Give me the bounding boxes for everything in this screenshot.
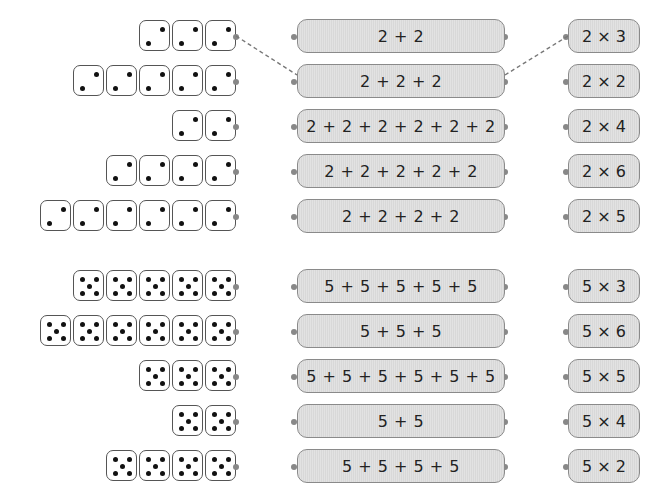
- dice-group: [40, 200, 236, 231]
- pip-icon: [179, 221, 184, 226]
- pip-icon: [113, 471, 118, 476]
- pip-icon: [113, 336, 118, 341]
- pip-icon: [179, 277, 184, 282]
- die-face-5-icon: [40, 315, 71, 346]
- pip-icon: [186, 329, 191, 334]
- section_two-row: 2 + 2 + 2 + 22 × 5: [0, 199, 660, 235]
- addition-expression-box[interactable]: 2 + 2 + 2: [297, 64, 505, 98]
- multiplication-expression-box[interactable]: 2 × 6: [568, 154, 640, 188]
- pip-icon: [153, 284, 158, 289]
- pip-icon: [219, 374, 224, 379]
- addition-expression-box[interactable]: 5 + 5 + 5 + 5: [297, 449, 505, 483]
- pip-icon: [160, 27, 165, 32]
- addition-expression-box[interactable]: 5 + 5 + 5: [297, 314, 505, 348]
- dice-connector-dot[interactable]: [233, 329, 239, 335]
- pip-icon: [212, 291, 217, 296]
- section_five-row: 5 + 5 + 5 + 5 + 5 + 55 × 5: [0, 359, 660, 395]
- pip-icon: [160, 336, 165, 341]
- pip-icon: [226, 457, 231, 462]
- pip-icon: [193, 336, 198, 341]
- die-face-5-icon: [139, 270, 170, 301]
- die-face-2-icon: [172, 20, 203, 51]
- pip-icon: [160, 471, 165, 476]
- section_five-row: 5 + 5 + 5 + 55 × 2: [0, 449, 660, 485]
- pip-icon: [193, 117, 198, 122]
- pip-icon: [160, 207, 165, 212]
- dice-connector-dot[interactable]: [233, 79, 239, 85]
- die-face-2-icon: [205, 20, 236, 51]
- pip-icon: [146, 322, 151, 327]
- pip-icon: [160, 72, 165, 77]
- pip-icon: [153, 464, 158, 469]
- addition-expression-box[interactable]: 2 + 2 + 2 + 2 + 2: [297, 154, 505, 188]
- pip-icon: [113, 277, 118, 282]
- pip-icon: [226, 27, 231, 32]
- multiplication-expression-box[interactable]: 2 × 3: [568, 19, 640, 53]
- multiplication-expression-box[interactable]: 2 × 2: [568, 64, 640, 98]
- die-face-5-icon: [139, 315, 170, 346]
- dice-connector-dot[interactable]: [233, 374, 239, 380]
- dice-group: [40, 315, 236, 346]
- pip-icon: [226, 367, 231, 372]
- multiplication-expression-box[interactable]: 5 × 5: [568, 359, 640, 393]
- die-face-5-icon: [172, 405, 203, 436]
- die-face-5-icon: [205, 360, 236, 391]
- pip-icon: [160, 381, 165, 386]
- pip-icon: [226, 322, 231, 327]
- pip-icon: [179, 367, 184, 372]
- pip-icon: [146, 41, 151, 46]
- dice-connector-dot[interactable]: [233, 284, 239, 290]
- pip-icon: [113, 457, 118, 462]
- die-face-5-icon: [106, 315, 137, 346]
- dice-connector-dot[interactable]: [233, 34, 239, 40]
- pip-icon: [219, 329, 224, 334]
- dice-group: [172, 405, 236, 436]
- pip-icon: [146, 291, 151, 296]
- die-face-5-icon: [172, 270, 203, 301]
- pip-icon: [146, 336, 151, 341]
- dice-connector-dot[interactable]: [233, 214, 239, 220]
- pip-icon: [226, 336, 231, 341]
- pip-icon: [160, 367, 165, 372]
- dice-connector-dot[interactable]: [233, 464, 239, 470]
- pip-icon: [113, 291, 118, 296]
- pip-icon: [212, 471, 217, 476]
- multiplication-expression-box[interactable]: 5 × 6: [568, 314, 640, 348]
- addition-expression-box[interactable]: 2 + 2: [297, 19, 505, 53]
- addition-expression-box[interactable]: 5 + 5 + 5 + 5 + 5: [297, 269, 505, 303]
- pip-icon: [80, 277, 85, 282]
- pip-icon: [212, 176, 217, 181]
- pip-icon: [212, 131, 217, 136]
- pip-icon: [193, 27, 198, 32]
- pip-icon: [193, 322, 198, 327]
- multiplication-expression-box[interactable]: 2 × 4: [568, 109, 640, 143]
- dice-connector-dot[interactable]: [233, 419, 239, 425]
- pip-icon: [179, 41, 184, 46]
- multiplication-expression-box[interactable]: 5 × 4: [568, 404, 640, 438]
- addition-expression-box[interactable]: 5 + 5: [297, 404, 505, 438]
- dice-connector-dot[interactable]: [233, 169, 239, 175]
- section_five-row: 5 + 5 + 55 × 6: [0, 314, 660, 350]
- pip-icon: [146, 176, 151, 181]
- dice-group: [106, 155, 236, 186]
- die-face-2-icon: [139, 200, 170, 231]
- pip-icon: [179, 322, 184, 327]
- pip-icon: [61, 207, 66, 212]
- dice-connector-dot[interactable]: [233, 124, 239, 130]
- addition-expression-box[interactable]: 5 + 5 + 5 + 5 + 5 + 5: [297, 359, 505, 393]
- die-face-2-icon: [40, 200, 71, 231]
- pip-icon: [146, 381, 151, 386]
- die-face-2-icon: [205, 155, 236, 186]
- dice-group: [106, 450, 236, 481]
- dice-group: [139, 20, 236, 51]
- die-face-2-icon: [205, 65, 236, 96]
- die-face-5-icon: [205, 450, 236, 481]
- die-face-5-icon: [139, 360, 170, 391]
- addition-expression-box[interactable]: 2 + 2 + 2 + 2: [297, 199, 505, 233]
- multiplication-expression-box[interactable]: 2 × 5: [568, 199, 640, 233]
- multiplication-expression-box[interactable]: 5 × 2: [568, 449, 640, 483]
- multiplication-expression-box[interactable]: 5 × 3: [568, 269, 640, 303]
- pip-icon: [113, 86, 118, 91]
- pip-icon: [212, 426, 217, 431]
- addition-expression-box[interactable]: 2 + 2 + 2 + 2 + 2 + 2: [297, 109, 505, 143]
